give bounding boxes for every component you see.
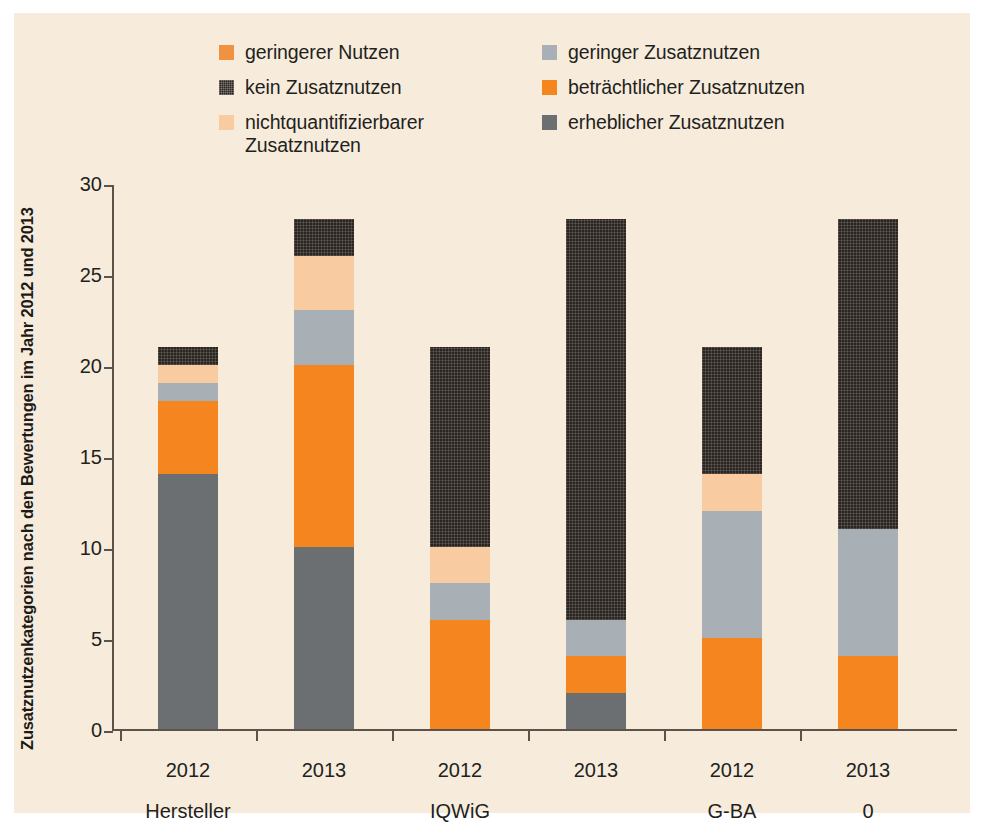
x-tick <box>120 731 122 741</box>
x-axis-year-label: 2013 <box>264 759 384 782</box>
y-tick <box>104 185 113 187</box>
x-axis-group-label: 0 <box>808 800 928 823</box>
x-tick <box>528 731 530 741</box>
x-axis-line <box>112 729 957 731</box>
bar-segment <box>294 256 354 311</box>
bar-stack[interactable] <box>702 347 762 729</box>
bar-segment <box>702 638 762 729</box>
x-axis-year-label: 2013 <box>808 759 928 782</box>
y-tick-label: 0 <box>58 719 102 742</box>
x-tick <box>800 731 802 741</box>
bar-segment <box>158 347 218 365</box>
y-tick-label: 10 <box>58 537 102 560</box>
bar-stack[interactable] <box>838 219 898 729</box>
bar-segment <box>702 474 762 510</box>
bar-segment <box>430 547 490 583</box>
y-tick-label: 15 <box>58 446 102 469</box>
y-tick-label: 5 <box>58 628 102 651</box>
y-tick <box>104 276 113 278</box>
bar-segment <box>566 620 626 656</box>
bar-stack[interactable] <box>430 347 490 729</box>
bar-segment <box>702 347 762 474</box>
y-axis-title: Zusatznutzenkategorien nach den Bewertun… <box>18 190 46 750</box>
y-tick <box>104 640 113 642</box>
y-tick <box>104 367 113 369</box>
bar-segment <box>294 365 354 547</box>
x-tick <box>664 731 666 741</box>
bar-segment <box>838 219 898 528</box>
bar-segment <box>158 401 218 474</box>
bar-stack[interactable] <box>294 219 354 729</box>
bar-stack[interactable] <box>158 347 218 729</box>
axes: 051015202530 2012Hersteller20132012IQWiG… <box>112 185 957 745</box>
bar-segment <box>158 383 218 401</box>
x-axis-group-label: Hersteller <box>128 800 248 823</box>
bar-segment <box>294 310 354 365</box>
bar-segment <box>294 219 354 255</box>
bar-segment <box>430 620 490 729</box>
x-axis-year-label: 2012 <box>128 759 248 782</box>
bar-segment <box>702 511 762 638</box>
y-tick <box>104 458 113 460</box>
y-tick-label: 20 <box>58 355 102 378</box>
x-axis-group-label: IQWiG <box>400 800 520 823</box>
chart-figure: geringerer Nutzen kein Zusatznutzen nich… <box>14 13 970 813</box>
x-axis-year-label: 2013 <box>536 759 656 782</box>
bar-segment <box>158 365 218 383</box>
bar-segment <box>294 547 354 729</box>
bar-segment <box>430 347 490 547</box>
x-tick <box>256 731 258 741</box>
bar-segment <box>158 474 218 729</box>
bar-stack[interactable] <box>566 219 626 729</box>
plot-area: Zusatznutzenkategorien nach den Bewertun… <box>14 13 970 813</box>
bar-segment <box>566 693 626 729</box>
x-tick <box>392 731 394 741</box>
bar-segment <box>566 656 626 692</box>
x-axis-year-label: 2012 <box>672 759 792 782</box>
bar-segment <box>566 219 626 619</box>
y-tick-label: 30 <box>58 173 102 196</box>
bar-segment <box>838 529 898 656</box>
x-axis-group-label: G-BA <box>672 800 792 823</box>
bar-segment <box>838 656 898 729</box>
x-axis-year-label: 2012 <box>400 759 520 782</box>
y-tick <box>104 731 113 733</box>
y-tick <box>104 549 113 551</box>
y-tick-label: 25 <box>58 264 102 287</box>
bar-segment <box>430 583 490 619</box>
